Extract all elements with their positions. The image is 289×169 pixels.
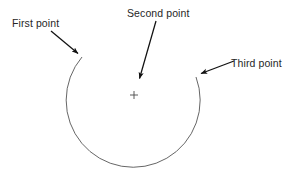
arrow-to-third-point [201,61,234,74]
plus-marker [130,91,138,99]
label-second-point: Second point [127,7,190,19]
open-circle-arc [66,57,200,167]
label-third-point: Third point [231,57,282,69]
arrow-to-second-point [140,21,157,79]
figure-canvas: First point Second point Third point [0,0,289,169]
label-first-point: First point [12,17,59,29]
arrow-to-first-point [51,31,78,54]
